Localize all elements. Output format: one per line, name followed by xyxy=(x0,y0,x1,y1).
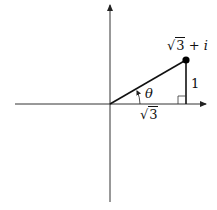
radicand: 3 xyxy=(148,106,157,122)
complex-plane-figure: √3 + i 1 θ √3 xyxy=(0,0,217,210)
adjacent-side-label: √3 xyxy=(140,108,158,121)
point-dot xyxy=(182,56,189,63)
diagram-canvas xyxy=(0,0,217,210)
right-angle-marker xyxy=(178,96,186,104)
imaginary-unit: i xyxy=(204,38,208,53)
opposite-side-label: 1 xyxy=(191,77,199,90)
point-label: √3 + i xyxy=(167,39,208,52)
angle-arc-icon xyxy=(137,91,140,104)
angle-label: θ xyxy=(145,87,153,100)
radicand: 3 xyxy=(175,37,184,53)
plus-sign: + xyxy=(185,38,204,53)
